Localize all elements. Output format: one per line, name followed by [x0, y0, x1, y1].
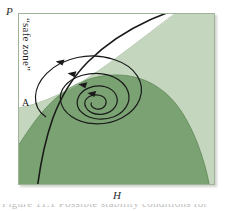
point-a-label: A	[22, 98, 29, 108]
figure-container: P H	[0, 0, 228, 211]
x-axis-label: H	[113, 190, 121, 201]
plot-canvas	[19, 14, 214, 184]
safe-zone-label: “safe zone”	[20, 18, 34, 136]
y-axis-label: P	[6, 6, 13, 17]
plot-frame: “safe zone” A	[18, 13, 215, 185]
figure-caption-text: Figure 11.1 Possible stability condition…	[2, 204, 228, 209]
figure-caption-cropped: Figure 11.1 Possible stability condition…	[0, 204, 228, 211]
